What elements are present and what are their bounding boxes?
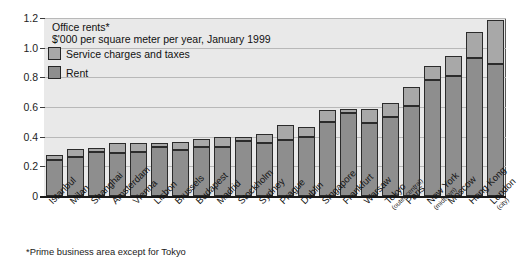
y-tick-label: 0.8	[8, 72, 38, 82]
chart-subtitle: $'000 per square meter per year, January…	[52, 33, 271, 46]
chart-footnote: *Prime business area except for Tokyo	[26, 246, 186, 257]
bar-segment-service	[466, 32, 482, 58]
bar-segment-service	[340, 109, 356, 113]
bar-segment-service	[88, 148, 104, 152]
bar-segment-service	[487, 20, 503, 64]
bar-segment-service	[361, 109, 377, 123]
bar-new-york	[424, 67, 440, 196]
chart-title: Office rents*	[52, 21, 110, 34]
y-tick-label: 0.2	[8, 161, 38, 171]
bar-segment-service	[151, 143, 167, 147]
bar-segment-service	[256, 134, 272, 142]
legend-label-rent: Rent	[66, 67, 88, 79]
legend-swatch-rent-icon	[48, 66, 61, 79]
y-axis: 00.20.40.60.81.01.2	[0, 0, 38, 200]
bar-segment-service	[298, 127, 314, 137]
y-tick-label: 0	[8, 191, 38, 201]
bar-segment-rent	[424, 80, 440, 196]
legend-swatch-service-icon	[48, 47, 61, 60]
bar-segment-service	[109, 143, 125, 153]
bar-segment-service	[382, 103, 398, 117]
bar-segment-service	[235, 137, 251, 141]
y-tick-label: 0.6	[8, 102, 38, 112]
bar-segment-service	[193, 139, 209, 147]
legend-label-service: Service charges and taxes	[66, 48, 190, 60]
y-tick-label: 1.2	[8, 13, 38, 23]
bar-segment-service	[214, 137, 230, 147]
bar-segment-service	[277, 125, 293, 139]
y-tick-label: 1.0	[8, 43, 38, 53]
bar-segment-service	[424, 66, 440, 80]
bar-segment-service	[67, 149, 83, 157]
bar-segment-service	[319, 110, 335, 121]
bar-segment-service	[445, 56, 461, 76]
y-tick-label: 0.4	[8, 132, 38, 142]
bar-segment-service	[172, 142, 188, 150]
bar-hong-kong	[466, 33, 482, 196]
legend-item-service: Service charges and taxes	[48, 47, 190, 60]
bar-segment-service	[130, 143, 146, 151]
bar-segment-service	[403, 87, 419, 106]
bar-segment-service	[46, 155, 62, 160]
legend-item-rent: Rent	[48, 66, 88, 79]
chart-root: 00.20.40.60.81.01.2 Office rents* $'000 …	[0, 0, 522, 264]
